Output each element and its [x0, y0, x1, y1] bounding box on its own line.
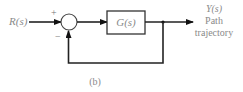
block-diagram: R(s) + − G(s) Y(s) Path trajectory (b)	[0, 0, 243, 92]
figure-caption: (b)	[89, 76, 101, 88]
minus-sign: −	[55, 31, 61, 42]
output-description-line2: trajectory	[195, 27, 233, 38]
block-label: G(s)	[116, 16, 136, 29]
summing-junction	[61, 14, 77, 30]
output-description-line1: Path	[205, 15, 223, 26]
output-label: Y(s)	[206, 3, 223, 15]
plus-sign: +	[51, 7, 57, 18]
input-label: R(s)	[8, 15, 28, 28]
